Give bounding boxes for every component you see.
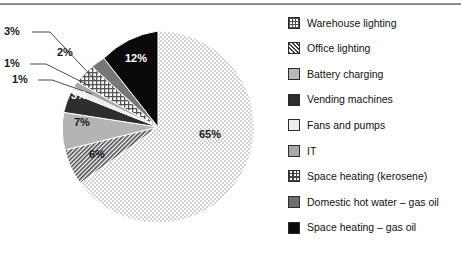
legend-swatch-dots-sparse-icon [288, 17, 300, 29]
legend-item-space-heating-gas-oil[interactable]: Space heating – gas oil [288, 215, 461, 241]
legend-item-warehouse-lighting[interactable]: Warehouse lighting [288, 10, 461, 36]
legend-swatch-solid-black-icon [288, 222, 300, 234]
legend-label: Space heating (kerosene) [307, 171, 427, 182]
legend-label: Vending machines [307, 94, 393, 105]
pie-slices [62, 31, 254, 223]
legend-swatch-solid-near-white-icon [288, 119, 300, 131]
legend-swatch-solid-mid-gray-icon [288, 145, 300, 157]
chart-legend: Warehouse lighting Office lighting Batte… [288, 10, 461, 240]
legend-label: IT [307, 146, 316, 157]
legend-label: Office lighting [307, 43, 370, 54]
legend-item-it[interactable]: IT [288, 138, 461, 164]
callout-label-kerosene: 3% [4, 25, 20, 37]
legend-swatch-grid-cross-icon [288, 170, 300, 182]
legend-item-vending-machines[interactable]: Vending machines [288, 87, 461, 113]
pie-chart: 3% 2% 1% 1% 12% 65% 7% 6% 3% [0, 8, 285, 254]
legend-label: Battery charging [307, 69, 383, 80]
callout-label-it: 1% [4, 57, 20, 69]
legend-item-space-heating-kerosene[interactable]: Space heating (kerosene) [288, 164, 461, 190]
slice-label-battery-charging: 7% [74, 116, 90, 128]
callout-label-fans-and-pumps: 1% [12, 73, 28, 85]
slice-label-vending-machines: 3% [71, 89, 87, 101]
legend-label: Domestic hot water – gas oil [307, 197, 439, 208]
slice-label-space-heating-gas-oil: 12% [125, 52, 147, 64]
legend-item-battery-charging[interactable]: Battery charging [288, 61, 461, 87]
legend-label: Space heating – gas oil [307, 222, 416, 233]
top-divider [0, 3, 461, 5]
slice-label-office-lighting: 6% [89, 148, 105, 160]
slice-label-warehouse-lighting: 65% [199, 128, 221, 140]
legend-label: Warehouse lighting [307, 18, 397, 29]
legend-swatch-solid-dark-gray-icon [288, 94, 300, 106]
legend-label: Fans and pumps [307, 120, 385, 131]
pie-chart-svg [0, 8, 285, 254]
legend-swatch-hatch-diagonal-icon [288, 42, 300, 54]
legend-item-office-lighting[interactable]: Office lighting [288, 36, 461, 62]
callout-label-domestic-hot-water: 2% [57, 46, 73, 58]
legend-item-fans-and-pumps[interactable]: Fans and pumps [288, 112, 461, 138]
legend-swatch-solid-light-gray-icon [288, 68, 300, 80]
legend-item-domestic-hot-water[interactable]: Domestic hot water – gas oil [288, 189, 461, 215]
legend-swatch-solid-gray-icon [288, 196, 300, 208]
